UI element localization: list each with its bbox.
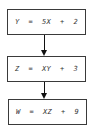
equation-y-label: Y = 5X + 2 <box>15 18 78 26</box>
arrow-y-to-z <box>44 35 45 50</box>
arrow-z-to-w <box>44 82 45 93</box>
equation-w-label: W = XZ + 9 <box>16 108 79 116</box>
equation-box-y: Y = 5X + 2 <box>7 9 86 35</box>
equation-box-w: W = XZ + 9 <box>8 99 87 125</box>
equation-box-z: Z = XY + 3 <box>7 56 86 82</box>
equation-z-label: Z = XY + 3 <box>15 65 78 73</box>
